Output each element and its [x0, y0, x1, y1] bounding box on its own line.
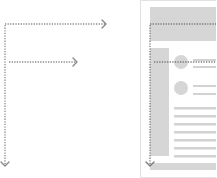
sidebar-block [150, 48, 169, 156]
footer-band [150, 163, 216, 170]
header-band [150, 7, 216, 41]
f-pattern-diagram [0, 0, 216, 178]
avatar-circle [174, 81, 188, 95]
left-arrows [5, 24, 105, 165]
page-wireframe [141, 1, 217, 178]
